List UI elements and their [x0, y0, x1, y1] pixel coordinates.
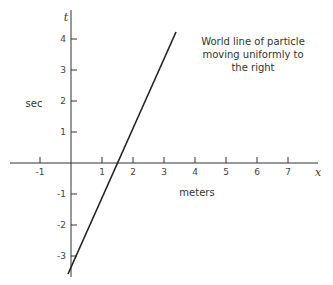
t-axis-label: t	[64, 11, 69, 24]
world-line	[68, 32, 176, 274]
t-tick-labels: 4 3 2 1 -1 -2 -3	[57, 34, 66, 261]
x-tick-label: -1	[36, 167, 45, 177]
x-tick-label: 1	[99, 167, 105, 177]
x-tick-label: 5	[223, 167, 229, 177]
t-tick-label: 2	[60, 96, 66, 106]
x-axis-label: x	[315, 166, 322, 179]
annotation-line: World line of particle	[188, 35, 318, 48]
t-unit-label: sec	[26, 98, 43, 109]
t-tick-label: 1	[60, 127, 66, 137]
x-tick-label: 6	[254, 167, 260, 177]
x-tick-labels: -1 1 2 3 4 5 6 7	[36, 167, 291, 177]
annotation-line: moving uniformly to	[188, 48, 318, 61]
t-tick-label: 4	[60, 34, 66, 44]
annotation-line: the right	[188, 61, 318, 74]
x-tick-label: 2	[130, 167, 136, 177]
x-tick-label: 4	[192, 167, 198, 177]
t-tick-label: -2	[57, 220, 66, 230]
t-tick-label: -3	[57, 251, 66, 261]
t-tick-label: -1	[57, 189, 66, 199]
t-ticks	[71, 39, 77, 256]
x-unit-label: meters	[179, 187, 214, 198]
x-tick-label: 3	[161, 167, 167, 177]
world-line-annotation: World line of particle moving uniformly …	[188, 35, 318, 74]
t-tick-label: 3	[60, 65, 66, 75]
x-tick-label: 7	[285, 167, 291, 177]
x-ticks	[40, 157, 288, 163]
